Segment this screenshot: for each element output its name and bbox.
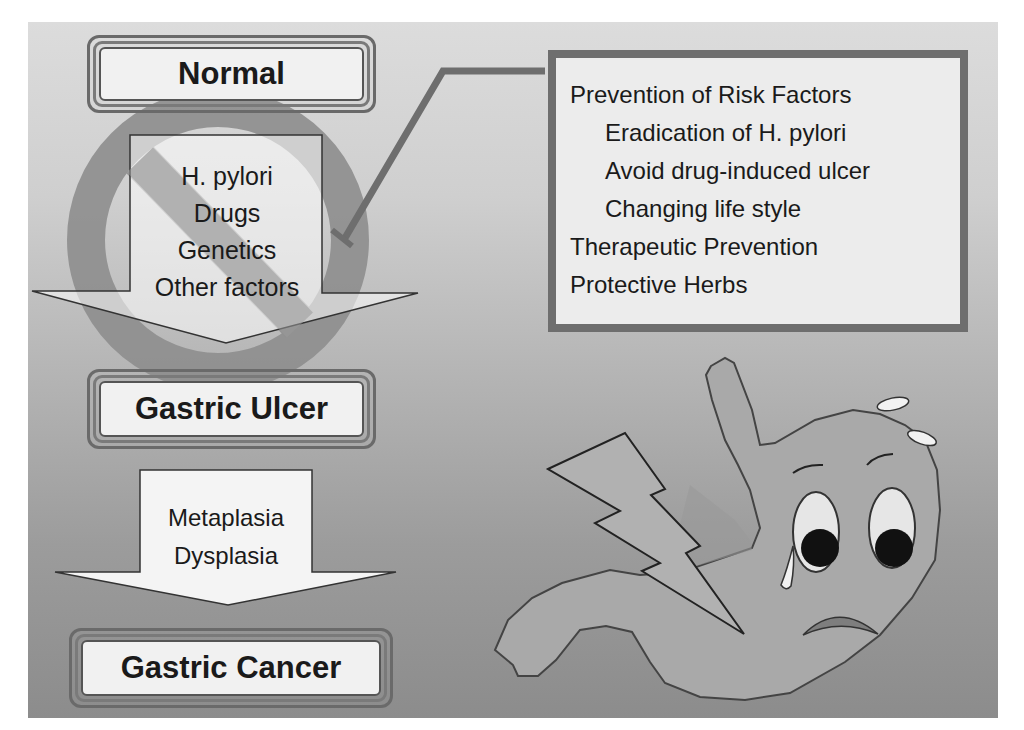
stage-gastric-cancer-label: Gastric Cancer	[81, 640, 381, 696]
prevention-subitem: Changing life style	[570, 190, 950, 228]
risk-factors-list: H. pylori Drugs Genetics Other factors	[122, 158, 332, 306]
sweat-drop-icon	[876, 395, 910, 413]
prevention-heading-risk-factors: Prevention of Risk Factors	[570, 76, 950, 114]
risk-factor-item: Genetics	[122, 232, 332, 269]
prevention-heading-therapeutic: Therapeutic Prevention	[570, 228, 950, 266]
prevention-subitem: Eradication of H. pylori	[570, 114, 950, 152]
prevention-strategies-box: Prevention of Risk Factors Eradication o…	[548, 50, 968, 332]
risk-factor-item: Drugs	[122, 195, 332, 232]
stage-gastric-ulcer-label: Gastric Ulcer	[99, 381, 364, 437]
stage-gastric-ulcer-box: Gastric Ulcer	[87, 369, 376, 449]
progression-step-item: Dysplasia	[140, 537, 312, 575]
stage-normal-box: Normal	[87, 35, 376, 113]
prevention-subitem: Avoid drug-induced ulcer	[570, 152, 950, 190]
risk-factor-item: Other factors	[122, 269, 332, 306]
sad-stomach-character-icon	[495, 358, 940, 700]
stage-normal-label: Normal	[99, 47, 364, 101]
progression-step-item: Metaplasia	[140, 499, 312, 537]
stage-gastric-cancer-box: Gastric Cancer	[69, 628, 393, 708]
progression-steps-list: Metaplasia Dysplasia	[140, 499, 312, 575]
risk-factor-item: H. pylori	[122, 158, 332, 195]
prevention-heading-herbs: Protective Herbs	[570, 266, 950, 304]
